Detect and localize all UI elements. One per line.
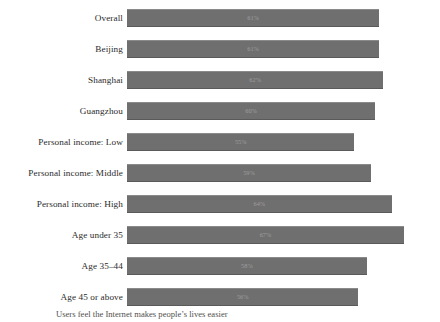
chart-row: Age under 35 67% — [0, 226, 440, 244]
bar-value-income-low: 55% — [235, 133, 247, 151]
category-label-overall: Overall — [0, 9, 127, 27]
chart-row: Guangzhou 60% — [0, 102, 440, 120]
chart-plot-area: Overall 61% Beijing 61% Shanghai 62% Gua… — [0, 9, 440, 319]
figure-caption: Users feel the Internet makes people’s l… — [56, 309, 426, 320]
category-label-age-under-35: Age under 35 — [0, 226, 127, 244]
bar-value-beijing: 61% — [247, 40, 259, 58]
chart-row: Personal income: Low 55% — [0, 133, 440, 151]
chart-row: Shanghai 62% — [0, 71, 440, 89]
category-label-guangzhou: Guangzhou — [0, 102, 127, 120]
bar-value-overall: 61% — [247, 9, 259, 27]
chart-row: Beijing 61% — [0, 40, 440, 58]
bar-track: 60% — [127, 102, 437, 120]
bar-value-age-45-or-above: 56% — [237, 288, 249, 306]
bar-value-age-under-35: 67% — [260, 226, 272, 244]
chart-row: Overall 61% — [0, 9, 440, 27]
bar-value-age-35-44: 58% — [241, 257, 253, 275]
chart-row: Age 45 or above 56% — [0, 288, 440, 306]
chart-row: Age 35–44 58% — [0, 257, 440, 275]
category-label-income-high: Personal income: High — [0, 195, 127, 213]
bar-value-shanghai: 62% — [249, 71, 261, 89]
bar-track: 61% — [127, 9, 437, 27]
bar-value-income-middle: 59% — [243, 164, 255, 182]
chart-row: Personal income: High 64% — [0, 195, 440, 213]
category-label-beijing: Beijing — [0, 40, 127, 58]
category-label-income-middle: Personal income: Middle — [0, 164, 127, 182]
bar-track: 61% — [127, 40, 437, 58]
chart-row: Personal income: Middle 59% — [0, 164, 440, 182]
bar-chart-figure: Overall 61% Beijing 61% Shanghai 62% Gua… — [0, 0, 440, 322]
bar-value-guangzhou: 60% — [245, 102, 257, 120]
category-label-income-low: Personal income: Low — [0, 133, 127, 151]
bar-track: 62% — [127, 71, 437, 89]
bar-track: 67% — [127, 226, 437, 244]
bar-track: 59% — [127, 164, 437, 182]
category-label-shanghai: Shanghai — [0, 71, 127, 89]
bar-track: 58% — [127, 257, 437, 275]
bar-value-income-high: 64% — [253, 195, 265, 213]
bar-track: 56% — [127, 288, 437, 306]
bar-track: 64% — [127, 195, 437, 213]
category-label-age-35-44: Age 35–44 — [0, 257, 127, 275]
bar-track: 55% — [127, 133, 437, 151]
category-label-age-45-or-above: Age 45 or above — [0, 288, 127, 306]
